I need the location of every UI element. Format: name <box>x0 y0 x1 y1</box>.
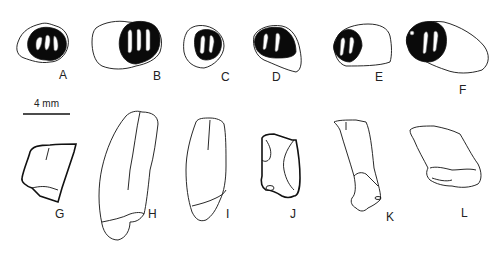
panel-label-e: E <box>375 71 383 83</box>
panel-label-g: G <box>55 208 64 220</box>
tooth-j-drawing <box>261 134 300 198</box>
panel-label-b: B <box>153 70 161 82</box>
tooth-k-drawing <box>334 120 381 211</box>
tooth-e-drawing <box>334 24 392 66</box>
tooth-f-drawing <box>406 22 488 74</box>
panel-label-j: J <box>290 208 296 220</box>
panel-label-c: C <box>221 71 230 83</box>
tooth-figure <box>0 0 504 254</box>
tooth-i-drawing <box>186 118 226 221</box>
panel-label-f: F <box>459 84 466 96</box>
panel-label-i: I <box>226 208 229 220</box>
panel-label-h: H <box>148 208 157 220</box>
tooth-l-drawing <box>410 126 481 187</box>
panel-label-a: A <box>59 69 67 81</box>
panel-label-k: K <box>386 211 394 223</box>
tooth-g-drawing <box>22 144 76 202</box>
panel-label-l: L <box>461 207 468 219</box>
panel-label-d: D <box>272 71 281 83</box>
tooth-b-drawing <box>92 21 162 69</box>
tooth-c-drawing <box>184 25 224 68</box>
scale-bar-label: 4 mm <box>34 99 59 109</box>
tooth-a-drawing <box>17 23 69 62</box>
tooth-d-drawing <box>253 25 301 72</box>
